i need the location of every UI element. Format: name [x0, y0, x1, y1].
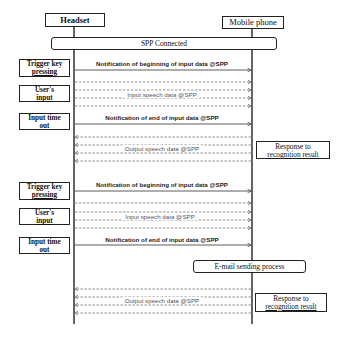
output-speech-label: Output speech data @SPP — [122, 297, 202, 304]
input-speech-label: Input speech data @SPP — [124, 91, 200, 98]
trigger-key-event: Trigger key pressing — [19, 182, 70, 200]
output-speech-label: Output speech data @SPP — [122, 145, 202, 152]
users-input-event: User's input — [19, 85, 70, 102]
sequence-diagram: Headset Mobile phone SPP Connected Trigg… — [0, 0, 345, 342]
begin-message-label: Notification of beginning of input data … — [96, 181, 228, 188]
input-speech-label: Input speech data @SPP — [122, 213, 198, 220]
input-timeout-event: Input time out — [19, 113, 70, 130]
response-box: Response to recognition result — [256, 141, 330, 159]
headset-actor: Headset — [45, 13, 105, 27]
trigger-key-event: Trigger key pressing — [19, 59, 70, 77]
email-sending-process-box: E-mail sending process — [193, 260, 306, 273]
end-message-label: Notification of end of input data @SPP — [105, 236, 218, 243]
mobile-phone-actor: Mobile phone — [222, 16, 284, 29]
input-timeout-event: Input time out — [19, 237, 70, 254]
diagram-lines — [0, 0, 345, 342]
end-message-label: Notification of end of input data @SPP — [105, 114, 218, 121]
users-input-event: User's input — [19, 208, 70, 225]
begin-message-label: Notification of beginning of input data … — [96, 60, 228, 67]
response-box: Response to recognition result — [255, 293, 327, 312]
spp-connected-box: SPP Connected — [51, 37, 277, 50]
